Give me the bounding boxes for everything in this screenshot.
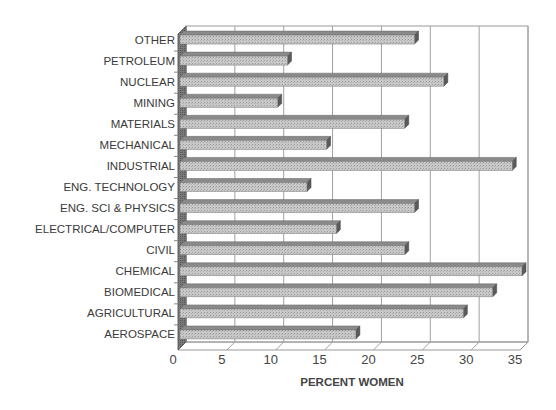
bar-electrical-computer xyxy=(180,225,336,234)
x-tick-label: 25 xyxy=(402,352,432,368)
category-label: AEROSPACE xyxy=(104,327,175,341)
category-label: INDUSTRIAL xyxy=(107,159,175,173)
bar-eng-sci-physics xyxy=(180,204,415,213)
bar-nuclear xyxy=(180,77,444,86)
x-tick-label: 30 xyxy=(451,352,481,368)
bar-top-face xyxy=(180,52,291,56)
x-tick-label: 20 xyxy=(353,352,383,368)
bar-top-face xyxy=(180,263,526,267)
floor-gridline xyxy=(422,342,430,350)
bar-top-face xyxy=(180,115,409,119)
bar-top-face xyxy=(180,221,340,225)
bar-top-face xyxy=(180,31,419,35)
bar-chemical xyxy=(180,267,522,276)
category-label: BIOMEDICAL xyxy=(104,285,175,299)
bar-top-face xyxy=(180,157,516,161)
category-label: NUCLEAR xyxy=(120,75,175,89)
category-label: AGRICULTURAL xyxy=(87,306,175,320)
x-tick-label: 35 xyxy=(500,352,530,368)
bar-civil xyxy=(180,246,405,255)
category-label: MECHANICAL xyxy=(100,138,175,152)
bar-petroleum xyxy=(180,56,287,65)
x-axis-title: PERCENT WOMEN xyxy=(0,376,556,388)
bar-materials xyxy=(180,119,405,128)
category-label: MATERIALS xyxy=(111,117,175,131)
bar-top-face xyxy=(180,305,467,309)
category-label: PETROLEUM xyxy=(103,54,175,68)
bar-mining xyxy=(180,98,278,107)
category-label: ENG. SCI & PHYSICS xyxy=(60,201,175,215)
bar-agricultural xyxy=(180,309,463,318)
x-axis-title-text: PERCENT WOMEN xyxy=(300,376,404,388)
category-label: ENG. TECHNOLOGY xyxy=(63,180,175,194)
bar-top-face xyxy=(180,326,360,330)
category-label: MINING xyxy=(133,96,175,110)
x-tick-label: 5 xyxy=(207,352,237,368)
bar-top-face xyxy=(180,200,419,204)
bar-mechanical xyxy=(180,140,327,149)
x-tick-label: 0 xyxy=(158,352,188,368)
bar-top-face xyxy=(180,242,409,246)
bar-top-face xyxy=(180,179,311,183)
category-label: ELECTRICAL/COMPUTER xyxy=(35,222,175,236)
category-label: CHEMICAL xyxy=(116,264,175,278)
floor-gridline xyxy=(276,342,284,350)
bar-top-face xyxy=(180,94,282,98)
category-label: OTHER xyxy=(135,33,175,47)
floor-gridline xyxy=(227,342,235,350)
floor-gridline xyxy=(373,342,381,350)
x-tick-label: 10 xyxy=(256,352,286,368)
x-tick-label: 15 xyxy=(305,352,335,368)
bar-top-face xyxy=(180,136,331,140)
bar-chart: OTHERPETROLEUMNUCLEARMININGMATERIALSMECH… xyxy=(0,0,556,410)
bar-eng-technology xyxy=(180,183,307,192)
bar-aerospace xyxy=(180,330,356,339)
category-label: CIVIL xyxy=(146,243,175,257)
floor-gridline xyxy=(325,342,333,350)
bar-top-face xyxy=(180,284,497,288)
bar-biomedical xyxy=(180,288,493,297)
bar-industrial xyxy=(180,161,512,170)
bar-other xyxy=(180,35,415,44)
floor-gridline xyxy=(471,342,479,350)
bar-top-face xyxy=(180,73,448,77)
